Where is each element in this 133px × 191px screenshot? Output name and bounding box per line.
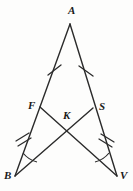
vertex-label-b: B	[4, 170, 11, 181]
tick-mark-double-fb	[16, 133, 31, 146]
segment-f-to-v	[40, 107, 117, 176]
geometry-figure: A F S K B V	[0, 0, 133, 191]
vertex-label-f: F	[28, 100, 35, 111]
segment-a-to-v	[70, 24, 117, 176]
vertex-label-k: K	[63, 110, 70, 121]
vertex-label-a: A	[68, 5, 75, 16]
geometry-diagram-svg	[0, 0, 133, 191]
angle-arc-at-b	[23, 153, 37, 162]
vertex-label-s: S	[99, 101, 105, 112]
vertex-label-v: V	[120, 170, 127, 181]
